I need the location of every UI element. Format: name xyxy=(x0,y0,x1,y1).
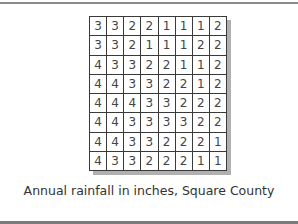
grid-cell: 2 xyxy=(175,94,192,113)
grid-cell: 2 xyxy=(175,74,192,93)
grid-cell: 3 xyxy=(124,113,141,132)
grid-cell: 1 xyxy=(192,17,209,36)
grid-cell: 4 xyxy=(124,94,141,113)
frame-bottom-border xyxy=(0,221,298,224)
grid-cell: 2 xyxy=(209,113,226,132)
grid-row: 33221112 xyxy=(90,17,227,36)
grid-cell: 3 xyxy=(124,132,141,151)
grid-cell: 2 xyxy=(124,17,141,36)
grid-cell: 3 xyxy=(141,132,158,151)
grid-cell: 4 xyxy=(90,113,107,132)
grid-cell: 1 xyxy=(175,36,192,55)
grid-cell: 1 xyxy=(141,36,158,55)
grid-cell: 2 xyxy=(209,36,226,55)
grid-row: 44332212 xyxy=(90,74,227,93)
grid-cell: 2 xyxy=(209,55,226,74)
grid-cell: 4 xyxy=(107,113,124,132)
grid-cell: 4 xyxy=(107,74,124,93)
grid-cell: 3 xyxy=(175,113,192,132)
grid-cell: 3 xyxy=(107,36,124,55)
grid-cell: 2 xyxy=(192,132,209,151)
grid-cell: 2 xyxy=(209,74,226,93)
grid-cell: 2 xyxy=(158,74,175,93)
grid-cell: 4 xyxy=(107,94,124,113)
grid-cell: 2 xyxy=(158,55,175,74)
grid-cell: 1 xyxy=(192,55,209,74)
frame-top-border xyxy=(0,2,298,4)
rainfall-grid-container: 3322111233211122433221124433221244433222… xyxy=(89,16,227,171)
grid-cell: 3 xyxy=(107,151,124,170)
grid-cell: 4 xyxy=(90,132,107,151)
grid-cell: 1 xyxy=(192,74,209,93)
grid-cell: 3 xyxy=(124,151,141,170)
grid-cell: 2 xyxy=(141,55,158,74)
grid-cell: 2 xyxy=(209,17,226,36)
figure-caption: Annual rainfall in inches, Square County xyxy=(0,183,298,198)
grid-cell: 2 xyxy=(192,113,209,132)
grid-cell: 1 xyxy=(175,55,192,74)
grid-cell: 3 xyxy=(107,17,124,36)
grid-cell: 4 xyxy=(90,94,107,113)
grid-cell: 3 xyxy=(124,74,141,93)
grid-cell: 1 xyxy=(158,17,175,36)
grid-row: 44332221 xyxy=(90,132,227,151)
grid-cell: 1 xyxy=(158,36,175,55)
rainfall-grid: 3322111233211122433221124433221244433222… xyxy=(89,16,227,171)
grid-cell: 1 xyxy=(209,132,226,151)
grid-cell: 2 xyxy=(192,36,209,55)
grid-cell: 4 xyxy=(107,132,124,151)
grid-cell: 2 xyxy=(175,151,192,170)
grid-cell: 1 xyxy=(192,151,209,170)
grid-cell: 4 xyxy=(90,74,107,93)
grid-cell: 1 xyxy=(209,151,226,170)
grid-cell: 3 xyxy=(107,55,124,74)
grid-cell: 2 xyxy=(124,36,141,55)
grid-row: 33211122 xyxy=(90,36,227,55)
grid-cell: 3 xyxy=(158,94,175,113)
grid-cell: 2 xyxy=(141,17,158,36)
grid-cell: 2 xyxy=(158,132,175,151)
grid-cell: 2 xyxy=(209,94,226,113)
grid-row: 44433222 xyxy=(90,94,227,113)
grid-cell: 3 xyxy=(141,94,158,113)
grid-cell: 3 xyxy=(141,113,158,132)
grid-cell: 2 xyxy=(141,151,158,170)
grid-cell: 2 xyxy=(175,132,192,151)
grid-cell: 2 xyxy=(192,94,209,113)
grid-cell: 1 xyxy=(175,17,192,36)
grid-cell: 2 xyxy=(158,151,175,170)
grid-cell: 3 xyxy=(141,74,158,93)
grid-cell: 3 xyxy=(124,55,141,74)
grid-row: 43322112 xyxy=(90,55,227,74)
grid-cell: 3 xyxy=(90,36,107,55)
grid-cell: 4 xyxy=(90,151,107,170)
grid-cell: 3 xyxy=(90,17,107,36)
grid-cell: 4 xyxy=(90,55,107,74)
grid-row: 43322211 xyxy=(90,151,227,170)
grid-cell: 3 xyxy=(158,113,175,132)
grid-row: 44333322 xyxy=(90,113,227,132)
